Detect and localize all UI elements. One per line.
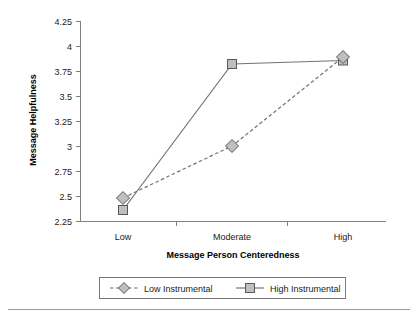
y-tick-label: 4.25 [54, 17, 72, 27]
y-tick-label: 3.75 [54, 67, 72, 77]
y-tick-label: 2.5 [59, 192, 72, 202]
square-icon [228, 60, 237, 69]
legend-item-low-instrumental[interactable]: Low Instrumental [110, 283, 213, 294]
square-icon [119, 206, 128, 215]
diamond-icon [226, 140, 239, 153]
y-tick-label: 4 [67, 42, 72, 52]
legend-label-low-instrumental: Low Instrumental [144, 284, 213, 294]
y-tick-label: 2.25 [54, 217, 72, 227]
y-tick-label: 3.5 [59, 92, 72, 102]
x-axis-title: Message Person Centeredness [166, 250, 299, 260]
y-tick-label: 3.25 [54, 117, 72, 127]
x-axis-ticks [177, 222, 288, 227]
x-tick-label-high: High [334, 232, 353, 242]
legend-label-high-instrumental: High Instrumental [270, 284, 341, 294]
markers-low-instrumental [117, 51, 350, 205]
line-chart: 4.25 4 3.75 3.5 3.25 3 2.75 2.5 2.25 Low… [0, 0, 416, 314]
diamond-icon [117, 192, 130, 205]
y-tick-label: 2.75 [54, 167, 72, 177]
y-axis-title: Message Helpfulness [28, 74, 38, 166]
series-line-high-instrumental [123, 61, 343, 211]
figure-container: 4.25 4 3.75 3.5 3.25 3 2.75 2.5 2.25 Low… [0, 0, 416, 314]
y-tick-label: 3 [67, 142, 72, 152]
chart-legend: Low Instrumental High Instrumental [100, 278, 346, 299]
markers-high-instrumental [119, 56, 348, 215]
y-axis-ticks [76, 22, 81, 222]
x-tick-label-low: Low [115, 232, 132, 242]
x-tick-label-moderate: Moderate [213, 232, 251, 242]
series-line-low-instrumental [123, 57, 343, 198]
legend-item-high-instrumental[interactable]: High Instrumental [236, 284, 341, 294]
square-icon [246, 284, 255, 293]
